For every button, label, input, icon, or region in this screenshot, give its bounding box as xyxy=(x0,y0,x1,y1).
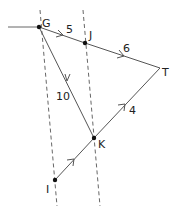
arrow-icon-K-T xyxy=(118,104,125,111)
dashed-cut-line-left xyxy=(40,10,57,206)
node-label-K: K xyxy=(98,138,106,151)
graph-diagram: G J T K I 5 6 10 4 xyxy=(0,0,173,211)
node-J xyxy=(83,41,87,45)
edge-weight-G-J: 5 xyxy=(66,23,73,36)
node-label-I: I xyxy=(46,183,49,196)
edge-K-T xyxy=(94,68,160,138)
edge-weight-K-T: 4 xyxy=(129,104,136,117)
edge-weight-J-T: 6 xyxy=(123,42,130,55)
node-label-G: G xyxy=(42,17,51,30)
node-I xyxy=(53,178,57,182)
edge-weight-G-K: 10 xyxy=(56,90,70,103)
node-label-J: J xyxy=(88,29,92,42)
node-G xyxy=(37,25,41,29)
node-K xyxy=(92,136,96,140)
node-label-T: T xyxy=(161,66,169,79)
